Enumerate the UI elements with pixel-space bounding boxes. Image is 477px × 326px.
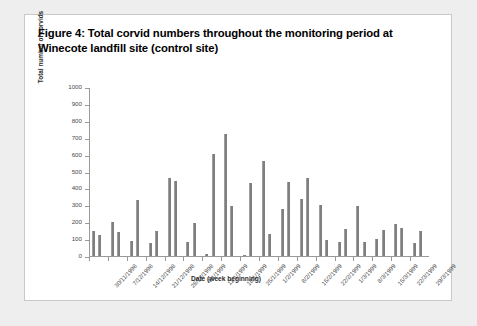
y-tick-label: 200	[72, 218, 82, 225]
y-axis-label: Total number of corvids	[37, 0, 49, 107]
y-tick-mark	[85, 223, 89, 224]
y-tick-mark	[85, 173, 89, 174]
bar	[212, 154, 215, 256]
y-tick-label: 400	[72, 184, 82, 191]
y-tick: 300	[43, 206, 89, 207]
bar	[268, 234, 271, 256]
bar	[224, 134, 227, 256]
bar	[382, 230, 385, 256]
x-tick-mark	[165, 257, 166, 261]
x-tick-label: 8/2/1999	[301, 263, 321, 284]
y-tick: 100	[43, 240, 89, 241]
y-tick-label: 800	[72, 117, 82, 124]
x-tick-mark	[297, 257, 298, 261]
page-background: Figure 4: Total corvid numbers throughou…	[0, 0, 477, 326]
bar	[249, 183, 252, 257]
x-tick-mark	[278, 257, 279, 261]
x-tick-mark	[221, 257, 222, 261]
bar	[338, 242, 341, 256]
x-tick-mark	[372, 257, 373, 261]
bar	[111, 222, 114, 256]
bar	[400, 228, 403, 256]
bar	[205, 254, 208, 256]
y-tick: 200	[43, 223, 89, 224]
x-tick-mark	[316, 257, 317, 261]
figure-card: Figure 4: Total corvid numbers throughou…	[24, 14, 452, 301]
y-tick-mark	[85, 105, 89, 106]
y-tick: 400	[43, 189, 89, 190]
y-tick-label: 900	[72, 100, 82, 107]
bar	[287, 182, 290, 256]
y-tick-label: 500	[72, 168, 82, 175]
y-axis-line	[89, 88, 90, 257]
bar	[174, 181, 177, 256]
y-tick: 0	[43, 257, 89, 258]
y-tick-mark	[85, 156, 89, 157]
x-tick-mark	[183, 257, 184, 261]
figure-title: Figure 4: Total corvid numbers throughou…	[38, 26, 436, 56]
x-tick-mark	[202, 257, 203, 261]
x-tick-mark	[335, 257, 336, 261]
chart-container: Total number of corvids 1000900800700600…	[41, 63, 441, 295]
x-tick-mark	[353, 257, 354, 261]
bar	[300, 199, 303, 256]
y-tick-label: 300	[72, 201, 82, 208]
bar	[117, 232, 120, 256]
bar	[193, 223, 196, 256]
x-tick-mark	[259, 257, 260, 261]
y-tick: 800	[43, 122, 89, 123]
bar	[344, 229, 347, 256]
bar	[92, 231, 95, 256]
y-tick-mark	[85, 240, 89, 241]
y-tick: 600	[43, 156, 89, 157]
bar	[262, 161, 265, 256]
x-tick-label: 8/3/1999	[376, 263, 396, 284]
x-tick-mark	[146, 257, 147, 261]
bar	[243, 255, 246, 256]
y-tick: 900	[43, 105, 89, 106]
bar	[394, 224, 397, 256]
y-tick-mark	[85, 88, 89, 89]
bar	[136, 200, 139, 256]
bar	[413, 243, 416, 256]
bar	[419, 231, 422, 256]
bar	[363, 242, 366, 256]
bar	[130, 241, 133, 256]
x-tick-mark	[391, 257, 392, 261]
y-tick: 700	[43, 139, 89, 140]
bar	[98, 235, 101, 256]
y-tick: 500	[43, 173, 89, 174]
bar	[149, 243, 152, 256]
bar	[306, 178, 309, 256]
y-tick-label: 600	[72, 151, 82, 158]
x-axis-label: Date (week beginning)	[191, 275, 261, 282]
bar	[325, 240, 328, 256]
y-tick-mark	[85, 189, 89, 190]
x-tick-mark	[127, 257, 128, 261]
x-tick-mark	[240, 257, 241, 261]
bar	[356, 206, 359, 256]
x-tick-mark	[89, 257, 90, 261]
x-tick-mark	[108, 257, 109, 261]
bar	[186, 242, 189, 256]
bar	[230, 206, 233, 256]
y-tick-label: 0	[79, 252, 82, 259]
x-tick-mark	[410, 257, 411, 261]
y-tick-mark	[85, 122, 89, 123]
bar	[375, 239, 378, 256]
y-tick-label: 700	[72, 134, 82, 141]
y-tick: 1000	[43, 88, 89, 89]
plot-area: 10009008007006005004003002001000 30/11/1…	[89, 88, 429, 257]
bar	[168, 178, 171, 256]
y-tick-mark	[85, 206, 89, 207]
y-tick-label: 100	[72, 235, 82, 242]
bar	[155, 231, 158, 256]
bar	[319, 205, 322, 256]
bar	[281, 209, 284, 256]
y-tick-label: 1000	[68, 83, 82, 90]
y-tick-mark	[85, 139, 89, 140]
